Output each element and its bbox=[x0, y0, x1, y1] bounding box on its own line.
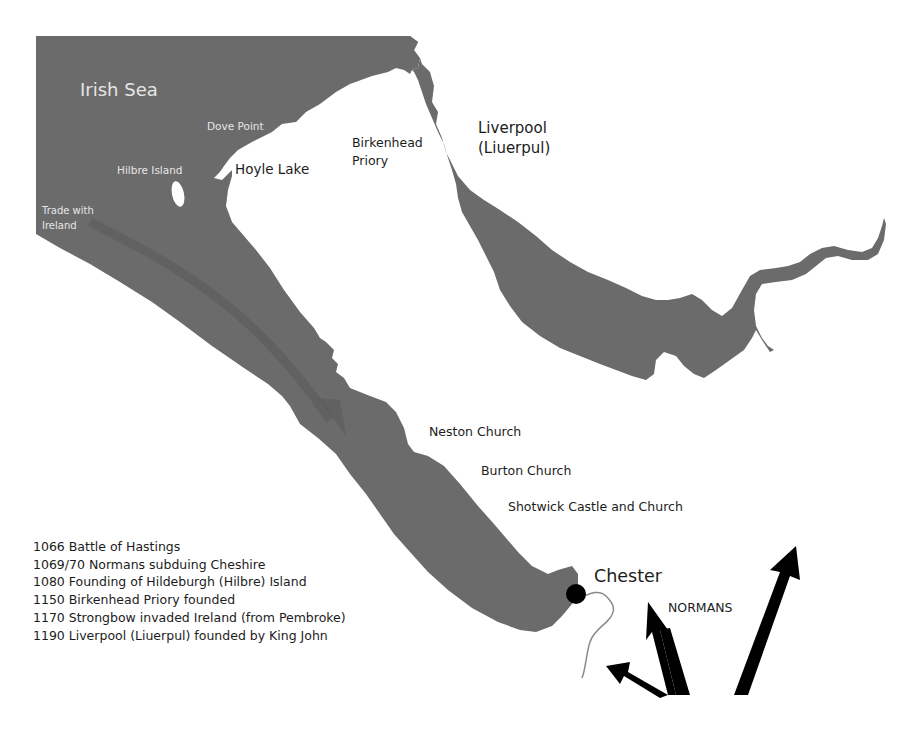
shotwick-label: Shotwick Castle and Church bbox=[508, 499, 683, 514]
timeline-list: 1066 Battle of Hastings 1069/70 Normans … bbox=[33, 538, 346, 644]
timeline-item: 1080 Founding of Hildeburgh (Hilbre) Isl… bbox=[33, 573, 346, 591]
timeline-item: 1170 Strongbow invaded Ireland (from Pem… bbox=[33, 609, 346, 627]
timeline-item: 1069/70 Normans subduing Cheshire bbox=[33, 556, 346, 574]
dove-point-label: Dove Point bbox=[207, 120, 264, 133]
chester-marker-icon bbox=[566, 584, 586, 604]
trade-with-ireland-label-line2: Ireland bbox=[42, 220, 77, 232]
irish-sea-label: Irish Sea bbox=[80, 79, 158, 101]
liverpool-label-line2: (Liuerpul) bbox=[478, 139, 550, 157]
timeline-item: 1150 Birkenhead Priory founded bbox=[33, 591, 346, 609]
neston-church-label: Neston Church bbox=[429, 424, 521, 439]
hilbre-island-label: Hilbre Island bbox=[117, 164, 183, 177]
chester-label: Chester bbox=[594, 566, 662, 587]
burton-church-label: Burton Church bbox=[481, 463, 571, 478]
birkenhead-priory-label-line2: Priory bbox=[352, 153, 388, 168]
timeline-item: 1190 Liverpool (Liuerpul) founded by Kin… bbox=[33, 627, 346, 645]
liverpool-label-line1: Liverpool bbox=[478, 119, 547, 137]
mersey-estuary-water bbox=[410, 36, 886, 380]
trade-with-ireland-label-line1: Trade with bbox=[42, 205, 94, 217]
timeline-item: 1066 Battle of Hastings bbox=[33, 538, 346, 556]
hoyle-lake-label: Hoyle Lake bbox=[235, 161, 309, 177]
chester-river-outline bbox=[580, 592, 613, 678]
normans-label: NORMANS bbox=[668, 600, 733, 615]
birkenhead-priory-label-line1: Birkenhead bbox=[352, 135, 423, 150]
